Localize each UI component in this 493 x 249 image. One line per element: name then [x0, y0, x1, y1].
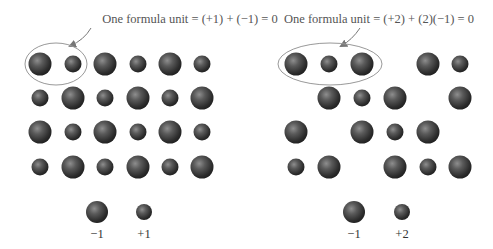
left-legend-anion-label: −1 — [90, 227, 103, 241]
cation-sphere — [288, 159, 305, 176]
cation-sphere — [32, 90, 49, 107]
cation-sphere — [354, 90, 371, 107]
cation-sphere — [65, 124, 82, 141]
cation-sphere — [452, 56, 469, 73]
left-legend-cation-label: +1 — [137, 227, 150, 241]
right-legend-cation-label: +2 — [395, 227, 408, 241]
anion-sphere — [127, 156, 150, 179]
anion-sphere — [351, 121, 374, 144]
anion-sphere — [159, 121, 182, 144]
ionic-lattice-diagram: One formula unit = (+1) + (−1) = 0 −1 +1… — [0, 0, 493, 249]
right-legend-cation-sphere — [394, 204, 410, 220]
right-panel: One formula unit = (+2) + (2)(−1) = 0 −1… — [278, 12, 474, 241]
cation-sphere — [65, 56, 82, 73]
cation-sphere — [130, 56, 147, 73]
anion-sphere — [417, 121, 440, 144]
left-arrow — [70, 28, 91, 46]
right-legend-anion-label: −1 — [347, 227, 360, 241]
right-caption: One formula unit = (+2) + (2)(−1) = 0 — [284, 12, 474, 26]
anion-sphere — [351, 53, 374, 76]
anion-sphere — [94, 121, 117, 144]
cation-sphere — [321, 56, 338, 73]
cation-sphere — [130, 124, 147, 141]
anion-sphere — [62, 156, 85, 179]
left-panel: One formula unit = (+1) + (−1) = 0 −1 +1 — [25, 12, 278, 241]
cation-sphere — [194, 124, 211, 141]
cation-sphere — [387, 124, 404, 141]
right-lattice — [285, 53, 472, 179]
anion-sphere — [29, 53, 52, 76]
anion-sphere — [159, 53, 182, 76]
anion-sphere — [318, 156, 341, 179]
cation-sphere — [420, 159, 437, 176]
anion-sphere — [29, 121, 52, 144]
cation-sphere — [162, 159, 179, 176]
cation-sphere — [97, 90, 114, 107]
anion-sphere — [191, 87, 214, 110]
left-lattice — [29, 53, 214, 179]
left-legend-anion-sphere — [86, 201, 108, 223]
right-legend-anion-sphere — [343, 201, 365, 223]
anion-sphere — [62, 87, 85, 110]
cation-sphere — [162, 90, 179, 107]
anion-sphere — [191, 156, 214, 179]
anion-sphere — [318, 87, 341, 110]
anion-sphere — [94, 53, 117, 76]
anion-sphere — [417, 53, 440, 76]
cation-sphere — [97, 159, 114, 176]
anion-sphere — [384, 87, 407, 110]
cation-sphere — [32, 159, 49, 176]
cation-sphere — [194, 56, 211, 73]
left-legend-cation-sphere — [136, 204, 152, 220]
anion-sphere — [285, 121, 308, 144]
anion-sphere — [449, 156, 472, 179]
anion-sphere — [449, 87, 472, 110]
anion-sphere — [127, 87, 150, 110]
anion-sphere — [384, 156, 407, 179]
anion-sphere — [285, 53, 308, 76]
left-caption: One formula unit = (+1) + (−1) = 0 — [102, 12, 278, 26]
